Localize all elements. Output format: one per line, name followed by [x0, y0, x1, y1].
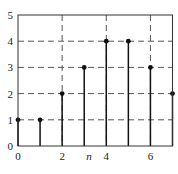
y-tick-label: 5 [8, 9, 14, 21]
y-tick-label: 4 [8, 35, 14, 47]
x-tick-label: 2 [59, 150, 65, 162]
y-tick-label: 0 [8, 140, 14, 152]
stem-marker [82, 65, 87, 70]
grid-lines [18, 15, 173, 146]
stem-marker [60, 91, 65, 96]
y-tick-label: 1 [8, 114, 14, 126]
y-tick-labels: 012345 [8, 9, 14, 152]
stem-marker [104, 39, 109, 44]
stem-chart: 012345 0246 n [0, 0, 178, 174]
stem-marker [38, 117, 43, 122]
stem-marker [126, 39, 131, 44]
stem-series [16, 39, 175, 146]
y-tick-label: 3 [8, 61, 14, 73]
y-tick-label: 2 [8, 88, 14, 100]
x-tick-label: 6 [148, 150, 154, 162]
x-tick-label: 0 [15, 150, 21, 162]
stem-marker [148, 65, 153, 70]
x-tick-label: 4 [104, 150, 110, 162]
plot-frame [18, 15, 173, 146]
x-axis-label: n [86, 150, 92, 162]
x-tick-labels: 0246 [15, 150, 153, 162]
